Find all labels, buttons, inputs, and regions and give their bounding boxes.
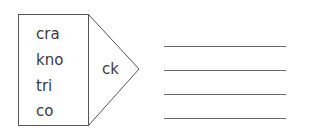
onset-word-2: kno [36,53,63,68]
rime-label: ck [102,62,119,77]
onset-word-3: tri [36,79,52,94]
answer-line-1[interactable] [164,46,286,47]
answer-line-2[interactable] [164,70,286,71]
onset-word-1: cra [36,27,60,42]
answer-line-3[interactable] [164,94,286,95]
answer-line-4[interactable] [164,118,286,119]
onset-word-4: co [36,104,53,119]
